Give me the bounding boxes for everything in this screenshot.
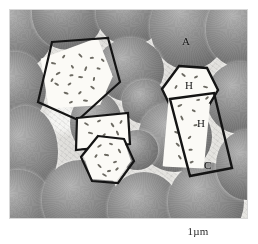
label-H-hexagon: H [185, 80, 193, 91]
figure-root: A H H C 1µm [0, 0, 258, 244]
label-A: A [182, 36, 190, 47]
label-C: C [204, 160, 211, 171]
tracing-right-bar-outline [158, 90, 238, 182]
micrograph-plate: A H H C [9, 9, 248, 219]
tracing-mid-hexagon-outline [78, 129, 142, 193]
scale-caption: 1µm [0, 225, 258, 237]
scale-caption-text: 1µm [50, 225, 209, 237]
label-H-bar: H [197, 118, 205, 129]
